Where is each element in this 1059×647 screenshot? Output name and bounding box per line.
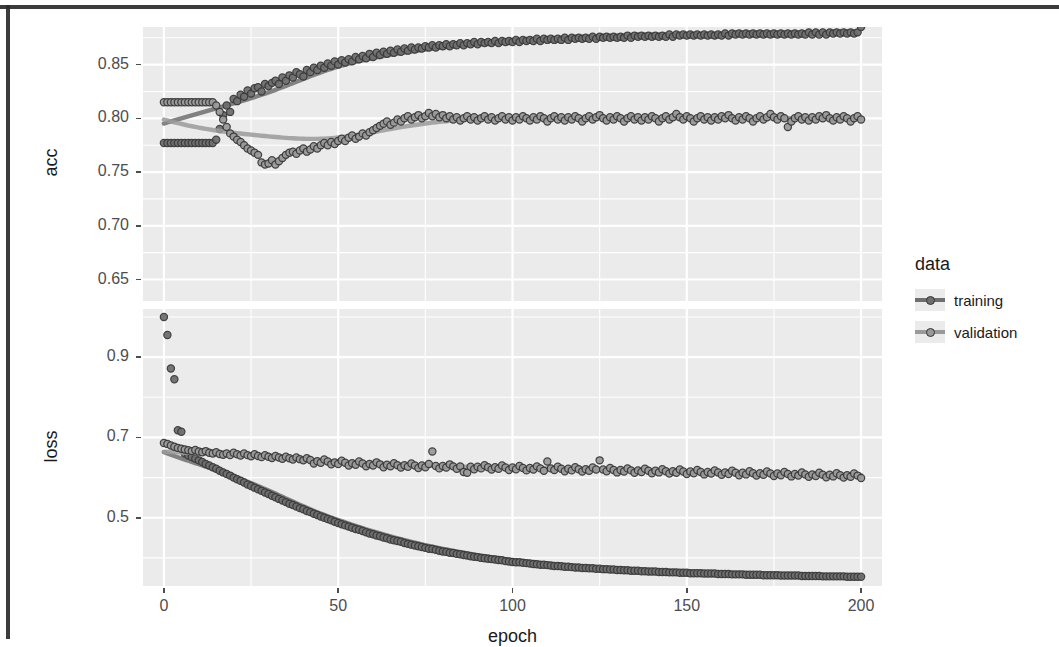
y-tick-label-acc: 0.70 bbox=[57, 216, 129, 234]
y-tick-mark-loss bbox=[136, 437, 141, 439]
y-tick-mark-loss bbox=[136, 356, 141, 358]
acc-plot-area bbox=[143, 27, 882, 301]
legend-key-icon bbox=[915, 321, 945, 343]
y-tick-label-acc: 0.80 bbox=[57, 108, 129, 126]
loss-plot-area bbox=[143, 309, 882, 586]
x-tick-mark bbox=[860, 588, 862, 593]
x-tick-mark bbox=[337, 588, 339, 593]
y-axis-title-loss: loss bbox=[41, 386, 62, 506]
legend-entry-validation[interactable]: validation bbox=[915, 319, 1050, 345]
x-tick-label: 50 bbox=[308, 597, 368, 615]
legend-key-point bbox=[926, 328, 935, 337]
y-tick-label-loss: 0.5 bbox=[57, 508, 129, 526]
legend-title: data bbox=[915, 254, 1050, 275]
y-tick-label-acc: 0.85 bbox=[57, 55, 129, 73]
x-tick-label: 200 bbox=[831, 597, 891, 615]
y-tick-label-acc: 0.75 bbox=[57, 162, 129, 180]
panel-acc bbox=[143, 27, 882, 301]
legend-entry-training[interactable]: training bbox=[915, 287, 1050, 313]
panel-loss bbox=[143, 309, 882, 586]
y-axis-title-acc: acc bbox=[41, 103, 62, 223]
legend-entries: trainingvalidation bbox=[915, 287, 1050, 345]
legend-key-point bbox=[926, 296, 935, 305]
x-tick-mark bbox=[512, 588, 514, 593]
y-tick-label-loss: 0.9 bbox=[57, 347, 129, 365]
y-tick-mark-acc bbox=[136, 171, 141, 173]
y-tick-label-acc: 0.65 bbox=[57, 270, 129, 288]
x-axis-title-epoch: epoch bbox=[453, 626, 573, 647]
y-tick-mark-acc bbox=[136, 279, 141, 281]
legend-key-icon bbox=[915, 289, 945, 311]
y-tick-label-loss: 0.7 bbox=[57, 427, 129, 445]
y-tick-mark-loss bbox=[136, 517, 141, 519]
x-tick-mark bbox=[686, 588, 688, 593]
legend: data trainingvalidation bbox=[915, 254, 1050, 351]
x-tick-label: 100 bbox=[483, 597, 543, 615]
y-tick-mark-acc bbox=[136, 64, 141, 66]
y-tick-mark-acc bbox=[136, 225, 141, 227]
legend-entry-label: validation bbox=[954, 324, 1017, 341]
y-tick-mark-acc bbox=[136, 118, 141, 120]
x-tick-mark bbox=[163, 588, 165, 593]
legend-entry-label: training bbox=[954, 292, 1003, 309]
x-tick-label: 150 bbox=[657, 597, 717, 615]
x-tick-label: 0 bbox=[134, 597, 194, 615]
training-history-figure: 0.850.800.750.700.650.90.70.505010015020… bbox=[10, 9, 1059, 639]
